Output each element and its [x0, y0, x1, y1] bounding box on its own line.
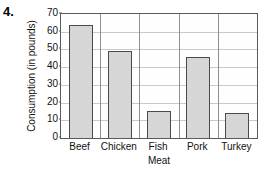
y-tick-label-60: 60	[38, 26, 58, 36]
x-tick-label-chicken: Chicken	[101, 141, 137, 153]
x-tick-label-turkey: Turkey	[221, 141, 251, 153]
bar-chicken	[108, 51, 132, 138]
x-tick-label-pork: Pork	[187, 141, 208, 153]
plot-area	[60, 13, 258, 139]
y-tick-label-10: 10	[38, 114, 58, 124]
y-tick-label-40: 40	[38, 61, 58, 71]
y-axis-title: Consumption (in pounds)	[26, 20, 37, 132]
y-tick-label-50: 50	[38, 43, 58, 53]
y-tick-label-20: 20	[38, 97, 58, 107]
x-axis-tick-labels: BeefChickenFishPorkTurkey	[60, 141, 258, 155]
y-tick-label-0: 0	[38, 132, 58, 142]
bar-pork	[186, 57, 210, 138]
y-tick-label-30: 30	[38, 79, 58, 89]
gridline-category-divider	[139, 14, 140, 138]
problem-number: 4.	[3, 5, 14, 18]
bar-beef	[69, 25, 93, 138]
bar-fish	[147, 111, 171, 138]
y-axis-tick-labels: 010203040506070	[38, 8, 58, 144]
gridline-category-divider	[100, 14, 101, 138]
bar-chart-figure: 4. Consumption (in pounds) 0102030405060…	[0, 0, 263, 176]
bar-turkey	[225, 113, 249, 138]
x-tick-label-fish: Fish	[149, 141, 168, 153]
y-axis-title-container: Consumption (in pounds)	[24, 10, 38, 142]
gridline-category-divider	[179, 14, 180, 138]
gridline-category-divider	[218, 14, 219, 138]
x-tick-label-beef: Beef	[69, 141, 90, 153]
x-axis-title: Meat	[60, 155, 258, 167]
y-tick-label-70: 70	[38, 8, 58, 18]
